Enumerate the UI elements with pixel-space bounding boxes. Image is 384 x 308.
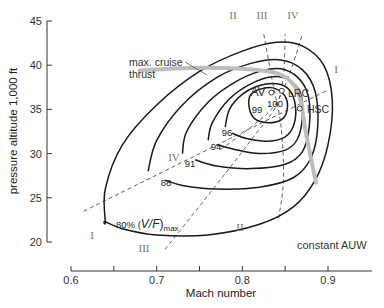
altitude-mach-contour-chart: 202530354045 0.60.70.80.9 pressure altit… — [0, 0, 384, 308]
y-tick-label: 40 — [30, 59, 42, 71]
ray-label-ii: II — [229, 9, 237, 21]
ray-ii — [264, 34, 284, 220]
ray-label-i: I — [334, 63, 338, 75]
ray-label-iii: III — [139, 242, 150, 254]
x-tick-label: 0.7 — [149, 274, 164, 286]
thrust-label-line1: max. cruise — [129, 56, 183, 68]
y-tick-label: 25 — [30, 192, 42, 204]
contour-label-80: 80% (V/F)max — [116, 217, 179, 233]
point-hsc — [297, 106, 302, 111]
ray-label-iv: IV — [287, 9, 299, 21]
x-axis-title: Mach number — [186, 287, 256, 299]
point-av — [269, 90, 274, 95]
y-tick-label: 35 — [30, 103, 42, 115]
contour-label-96: 96 — [222, 127, 233, 138]
x-tick-label: 0.8 — [235, 274, 250, 286]
constant-auw-annotation: constant AUW — [297, 239, 367, 251]
x-tick-label: 0.6 — [63, 274, 78, 286]
point-lrc — [279, 88, 284, 93]
ray-label-iv: IV — [168, 151, 180, 163]
y-tick-label: 30 — [30, 148, 42, 160]
contour-label-88: 88 — [161, 177, 172, 188]
y-tick-label: 20 — [30, 236, 42, 248]
contour-labels: 80% (V/F)max8891949699100 — [116, 98, 283, 233]
point-label-lrc: LRC — [288, 87, 309, 99]
x-tick-label: 0.9 — [320, 274, 335, 286]
contour-label-100: 100 — [267, 98, 283, 109]
thrust-label-line2: thrust — [129, 68, 155, 80]
ray-label-i: I — [90, 229, 94, 241]
ray-label-iii: III — [257, 9, 268, 21]
cruise-point-markers: AVLRCHSC — [250, 85, 329, 115]
ray-i — [84, 90, 328, 211]
contour-88 — [148, 60, 318, 190]
axes: 202530354045 0.60.70.80.9 pressure altit… — [7, 15, 372, 299]
contour-label-99: 99 — [252, 104, 263, 115]
point-label-av: AV — [250, 85, 265, 99]
contour-label-91: 91 — [185, 158, 196, 169]
ray-label-ii: II — [236, 221, 244, 233]
y-axis-title: pressure altitude 1,000 ft — [7, 67, 19, 194]
contour-label-94: 94 — [211, 141, 222, 152]
y-tick-label: 45 — [30, 15, 42, 27]
point-label-hsc: HSC — [307, 103, 330, 115]
